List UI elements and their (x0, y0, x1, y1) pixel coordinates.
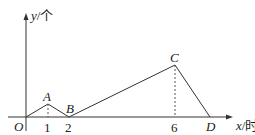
data-line (26, 65, 210, 117)
tick-1: 1 (44, 121, 51, 134)
x-unit: /时 (242, 118, 255, 133)
tick-6: 6 (171, 121, 178, 134)
y-axis-label: y/个 (31, 9, 53, 22)
point-B-label: B (66, 102, 74, 115)
point-C-label: C (170, 51, 179, 64)
point-D-label: D (206, 120, 215, 133)
x-axis-label: x/时 (236, 119, 255, 132)
point-A-label: A (43, 90, 51, 103)
y-unit: /个 (37, 8, 54, 23)
x-axis-arrow-icon (226, 115, 233, 120)
y-axis-arrow-icon (24, 13, 29, 20)
tick-2: 2 (65, 121, 72, 134)
origin-label: O (14, 120, 23, 133)
